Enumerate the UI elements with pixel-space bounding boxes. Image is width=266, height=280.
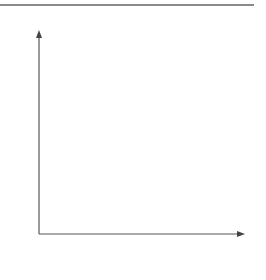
- x-axis-arrow-icon: [237, 231, 245, 237]
- coordinate-grid: [0, 0, 266, 280]
- y-axis-arrow-icon: [36, 30, 42, 38]
- axes: [36, 30, 245, 237]
